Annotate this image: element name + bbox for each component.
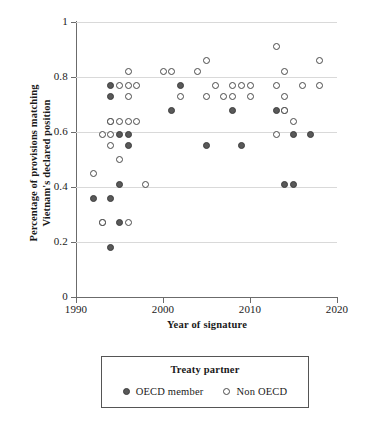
data-point <box>290 131 297 138</box>
legend-entry[interactable]: OECD member <box>123 386 204 397</box>
data-point <box>116 131 123 138</box>
y-tick-label: 0.6 <box>54 126 68 137</box>
data-point <box>203 93 210 100</box>
legend-entries: OECD memberNon OECD <box>102 386 308 397</box>
data-point <box>229 82 236 89</box>
data-point <box>125 93 132 100</box>
data-point <box>133 82 140 89</box>
data-point <box>107 82 114 89</box>
data-point <box>125 219 132 226</box>
y-axis-title-line1: Percentage of provisions matching <box>28 84 39 241</box>
legend-entry[interactable]: Non OECD <box>223 386 287 397</box>
data-point <box>229 93 236 100</box>
x-tick-label: 2000 <box>141 304 185 315</box>
x-tick-label: 2010 <box>228 304 272 315</box>
data-point <box>247 93 254 100</box>
data-point <box>90 170 97 177</box>
data-point <box>116 118 123 125</box>
data-point <box>107 244 114 251</box>
data-point <box>229 107 236 114</box>
plot-area <box>76 22 337 297</box>
y-tick-label: 0 <box>62 291 68 302</box>
data-point <box>281 107 288 114</box>
data-point <box>273 43 280 50</box>
data-point <box>116 181 123 188</box>
data-point <box>107 118 114 125</box>
y-tick-label: 0.2 <box>54 236 68 247</box>
data-point <box>160 68 167 75</box>
data-point <box>220 93 227 100</box>
y-tick-label: 1 <box>62 16 68 27</box>
data-point <box>90 195 97 202</box>
data-point <box>125 142 132 149</box>
data-point <box>281 68 288 75</box>
data-point <box>307 131 314 138</box>
data-point <box>290 181 297 188</box>
x-tick-label: 1990 <box>54 304 98 315</box>
data-point <box>273 131 280 138</box>
data-point <box>107 195 114 202</box>
data-point <box>281 93 288 100</box>
data-point <box>316 57 323 64</box>
data-point <box>299 82 306 89</box>
data-point <box>238 142 245 149</box>
data-point <box>247 82 254 89</box>
data-point <box>273 107 280 114</box>
data-point <box>238 82 245 89</box>
scatter-chart: 00.20.40.60.81 1990200020102020 Year of … <box>0 0 365 421</box>
data-point <box>281 181 288 188</box>
legend-title: Treaty partner <box>102 364 308 375</box>
data-point <box>99 219 106 226</box>
data-point <box>212 82 219 89</box>
legend-entry-label: Non OECD <box>236 386 287 397</box>
y-tick-label: 0.4 <box>54 181 68 192</box>
data-point <box>107 93 114 100</box>
data-point <box>203 57 210 64</box>
open-circle-icon <box>223 388 230 395</box>
data-point <box>177 82 184 89</box>
data-point <box>116 82 123 89</box>
data-point <box>142 181 149 188</box>
y-tick-label: 0.8 <box>54 71 68 82</box>
legend: Treaty partner OECD memberNon OECD <box>101 356 309 408</box>
filled-circle-icon <box>123 388 130 395</box>
data-point <box>116 156 123 163</box>
data-point <box>99 131 106 138</box>
data-point <box>177 93 184 100</box>
legend-entry-label: OECD member <box>136 386 204 397</box>
data-point <box>125 118 132 125</box>
data-point <box>194 68 201 75</box>
data-point <box>116 219 123 226</box>
data-point <box>168 107 175 114</box>
data-point <box>168 68 175 75</box>
data-point <box>273 82 280 89</box>
data-point <box>125 68 132 75</box>
data-point <box>316 82 323 89</box>
data-point <box>125 82 132 89</box>
x-axis-title: Year of signature <box>76 319 338 330</box>
x-axis-line <box>76 297 338 298</box>
data-point <box>290 118 297 125</box>
data-point <box>125 131 132 138</box>
data-point <box>107 142 114 149</box>
data-point <box>133 118 140 125</box>
data-point <box>203 142 210 149</box>
x-tick-label: 2020 <box>315 304 359 315</box>
y-axis-title: Percentage of provisions matching Vietna… <box>27 43 53 283</box>
y-axis-title-line2: Vietnam's declared position <box>41 100 52 227</box>
data-point <box>107 131 114 138</box>
